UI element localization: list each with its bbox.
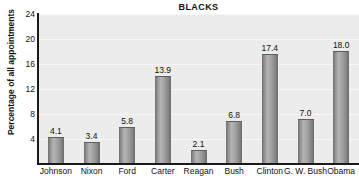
gridline bbox=[38, 89, 359, 90]
bar bbox=[191, 150, 207, 164]
y-axis-line bbox=[37, 13, 39, 165]
bar-value-label: 18.0 bbox=[324, 41, 358, 50]
y-axis-tick-label: 12 bbox=[19, 85, 35, 93]
bar-value-label: 6.8 bbox=[217, 111, 251, 120]
bar-value-label: 3.4 bbox=[75, 132, 109, 141]
bar bbox=[298, 119, 314, 164]
bar-value-label: 2.1 bbox=[182, 140, 216, 149]
chart-title: BLACKS bbox=[38, 1, 359, 13]
bar bbox=[262, 54, 278, 164]
bar-chart: BLACKS Percentage of all appointments 48… bbox=[0, 0, 359, 191]
bar-value-label: 4.1 bbox=[39, 127, 73, 136]
gridline bbox=[38, 64, 359, 65]
bar bbox=[48, 137, 64, 164]
bar bbox=[119, 127, 135, 164]
gridline bbox=[38, 14, 359, 15]
y-axis-tick-label: 16 bbox=[19, 60, 35, 68]
y-axis-tick-label: 4 bbox=[19, 135, 35, 143]
bar bbox=[155, 76, 171, 164]
x-axis-tick-label: Obama bbox=[318, 166, 359, 176]
y-axis-title: Percentage of all appointments bbox=[5, 0, 17, 147]
bar-value-label: 5.8 bbox=[110, 117, 144, 126]
y-axis-tick-label: 20 bbox=[19, 35, 35, 43]
bar bbox=[226, 121, 242, 165]
bar-value-label: 7.0 bbox=[289, 109, 323, 118]
x-axis-line bbox=[37, 163, 359, 165]
y-axis-tick-label: 8 bbox=[19, 110, 35, 118]
gridline bbox=[38, 39, 359, 40]
bar bbox=[333, 51, 349, 165]
bar-value-label: 13.9 bbox=[146, 66, 180, 75]
y-axis-tick-label: 24 bbox=[19, 10, 35, 18]
bar-value-label: 17.4 bbox=[253, 44, 287, 53]
bar bbox=[84, 142, 100, 164]
